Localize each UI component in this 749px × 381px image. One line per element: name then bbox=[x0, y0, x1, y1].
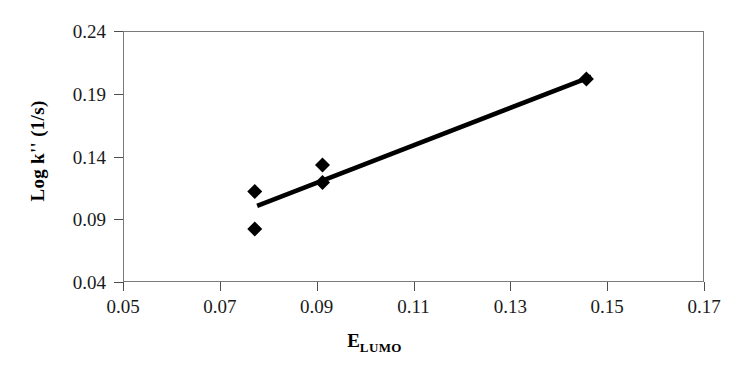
y-axis-tick-label: 0.09 bbox=[44, 210, 106, 229]
x-axis-title-subscript: LUMO bbox=[360, 340, 402, 355]
x-axis-tick-label: 0.05 bbox=[83, 297, 163, 316]
x-axis-tick-label: 0.17 bbox=[664, 297, 744, 316]
data-point-marker bbox=[247, 222, 262, 237]
x-axis-tick-mark bbox=[317, 282, 318, 291]
x-axis-tick-label: 0.13 bbox=[470, 297, 550, 316]
plot-canvas bbox=[124, 32, 705, 283]
x-axis-tick-mark bbox=[510, 282, 511, 291]
chart-figure: Log k'' (1/s) 0.040.090.140.190.24 0.050… bbox=[0, 0, 749, 381]
x-axis-tick-label: 0.09 bbox=[277, 297, 357, 316]
y-axis-tick-mark bbox=[114, 219, 123, 220]
trend-line bbox=[257, 77, 591, 206]
y-axis-tick-mark bbox=[114, 282, 123, 283]
y-axis-tick-label: 0.24 bbox=[44, 22, 106, 41]
x-axis-tick-label: 0.07 bbox=[180, 297, 260, 316]
y-axis-tick-label: 0.14 bbox=[44, 147, 106, 166]
y-axis-tick-mark bbox=[114, 31, 123, 32]
y-axis-tick-label: 0.19 bbox=[44, 84, 106, 103]
data-point-marker bbox=[315, 158, 330, 173]
plot-area bbox=[123, 31, 704, 282]
x-axis-title: ELUMO bbox=[0, 330, 749, 356]
x-axis-tick-label: 0.11 bbox=[374, 297, 454, 316]
data-point-marker bbox=[247, 184, 262, 199]
y-axis-tick-mark bbox=[114, 157, 123, 158]
y-axis-tick-mark bbox=[114, 94, 123, 95]
data-point-marker bbox=[579, 72, 594, 87]
data-series-group bbox=[247, 72, 594, 237]
x-axis-tick-mark bbox=[123, 282, 124, 291]
y-axis-tick-labels: 0.040.090.140.190.24 bbox=[42, 0, 106, 381]
x-axis-title-base: E bbox=[347, 330, 360, 351]
x-axis-tick-mark bbox=[220, 282, 221, 291]
x-axis-tick-mark bbox=[607, 282, 608, 291]
x-axis-tick-mark bbox=[704, 282, 705, 291]
x-axis-tick-mark bbox=[414, 282, 415, 291]
y-axis-tick-label: 0.04 bbox=[44, 273, 106, 292]
x-axis-tick-label: 0.15 bbox=[567, 297, 647, 316]
